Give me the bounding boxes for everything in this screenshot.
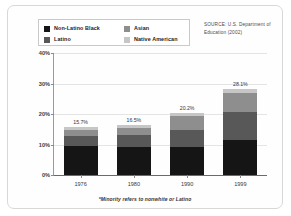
y-axis-label: 20% bbox=[39, 111, 50, 117]
legend-label-native-american: Native American bbox=[134, 36, 178, 43]
bar-segment bbox=[170, 130, 204, 147]
x-axis-tick bbox=[240, 175, 241, 178]
legend-row: Latino Native American bbox=[44, 34, 185, 45]
x-axis-tick bbox=[81, 175, 82, 178]
y-axis-tick bbox=[51, 145, 54, 146]
y-axis-tick bbox=[51, 175, 54, 176]
legend-swatch-native-american bbox=[124, 37, 130, 43]
y-axis-label: 10% bbox=[39, 141, 50, 147]
y-axis-tick bbox=[51, 84, 54, 85]
gridline bbox=[54, 53, 267, 54]
bar-segment bbox=[64, 146, 98, 175]
y-axis-tick bbox=[51, 114, 54, 115]
legend-item-latino: Latino bbox=[44, 36, 124, 43]
x-axis-tick bbox=[134, 175, 135, 178]
chart-legend: Non-Latino Black Asian Latino Native Ame… bbox=[38, 19, 190, 46]
y-axis-label: 40% bbox=[39, 50, 50, 56]
bar-segment bbox=[117, 135, 151, 147]
bar-segment bbox=[223, 112, 257, 140]
bar-segment bbox=[117, 128, 151, 135]
x-axis-label: 1999 bbox=[234, 181, 246, 187]
bar-1990[interactable]: 20.2%1990 bbox=[170, 113, 204, 175]
bar-segment bbox=[223, 140, 257, 175]
bar-segment bbox=[64, 136, 98, 147]
legend-swatch-latino bbox=[44, 37, 50, 43]
legend-item-non-latino-black: Non-Latino Black bbox=[44, 25, 124, 32]
plot-area: 0%10%20%30%40%15.7%197616.5%198020.2%199… bbox=[53, 53, 267, 176]
legend-swatch-asian bbox=[124, 26, 130, 32]
y-axis-label: 0% bbox=[42, 172, 50, 178]
x-axis-tick bbox=[187, 175, 188, 178]
y-axis-label: 30% bbox=[39, 80, 50, 86]
legend-item-native-american: Native American bbox=[124, 36, 178, 43]
legend-label-latino: Latino bbox=[54, 36, 71, 43]
x-axis-label: 1976 bbox=[74, 181, 86, 187]
bar-segment bbox=[117, 147, 151, 175]
legend-label-non-latino-black: Non-Latino Black bbox=[54, 25, 100, 32]
source-note: SOURCE: U.S. Department of Education (20… bbox=[204, 21, 282, 36]
legend-swatch-non-latino-black bbox=[44, 26, 50, 32]
bar-total-label: 15.7% bbox=[73, 119, 88, 125]
x-axis-label: 1980 bbox=[128, 181, 140, 187]
legend-row: Non-Latino Black Asian bbox=[44, 23, 185, 34]
bar-total-label: 20.2% bbox=[180, 105, 195, 111]
bar-segment bbox=[170, 147, 204, 175]
bar-total-label: 16.5% bbox=[127, 117, 142, 123]
bar-segment bbox=[223, 93, 257, 113]
bar-total-label: 28.1% bbox=[233, 81, 248, 87]
chart-frame: Non-Latino Black Asian Latino Native Ame… bbox=[7, 5, 283, 209]
bar-segment bbox=[170, 116, 204, 129]
y-axis-tick bbox=[51, 53, 54, 54]
bar-1976[interactable]: 15.7%1976 bbox=[64, 127, 98, 175]
footnote: *Minority refers to nonwhite or Latino bbox=[8, 196, 282, 202]
legend-item-asian: Asian bbox=[124, 25, 149, 32]
legend-label-asian: Asian bbox=[134, 25, 149, 32]
x-axis-label: 1990 bbox=[181, 181, 193, 187]
bar-1999[interactable]: 28.1%1999 bbox=[223, 89, 257, 175]
bar-1980[interactable]: 16.5%1980 bbox=[117, 125, 151, 175]
